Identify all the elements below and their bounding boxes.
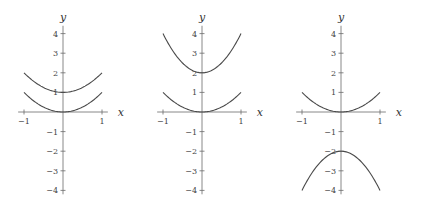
y-tick-label: 1 [53,88,58,97]
x-axis-label: x [257,106,264,119]
y-tick-label: 1 [192,88,197,97]
y-tick-label: 2 [331,69,336,78]
y-tick-label: −1 [185,128,197,137]
x-tick-label: −1 [18,117,30,126]
y-tick-label: −3 [46,167,58,176]
y-tick-label: 3 [331,49,336,58]
y-tick-label: 4 [53,30,58,39]
y-axis-label: y [337,11,345,24]
x-tick-label: −1 [157,117,169,126]
y-tick-label: −1 [324,128,336,137]
y-tick-label: 4 [192,30,197,39]
chart-panel-2: −11−4−3−2−11234xy [157,11,264,196]
parabola-comparison-charts: −11−4−3−2−11234xy−11−4−3−2−11234xy−11−4−… [0,0,422,209]
x-axis-label: x [118,106,125,119]
y-tick-label: −2 [46,147,58,156]
y-axis-label: y [198,11,206,24]
x-axis-label: x [396,106,403,119]
y-tick-label: 3 [192,49,197,58]
y-tick-label: −1 [46,128,58,137]
x-tick-label: 1 [238,117,243,126]
x-tick-label: 1 [377,117,382,126]
x-tick-label: −1 [296,117,308,126]
chart-panel-3: −11−4−3−2−11234xy [296,11,403,196]
y-tick-label: 3 [53,49,58,58]
x-tick-label: 1 [99,117,104,126]
chart-panel-1: −11−4−3−2−11234xy [18,11,125,196]
y-tick-label: 2 [53,69,58,78]
y-tick-label: −2 [185,147,197,156]
y-tick-label: −4 [324,186,336,195]
y-axis-label: y [59,11,67,24]
y-tick-label: −4 [185,186,197,195]
y-tick-label: 1 [331,88,336,97]
y-tick-label: 4 [331,30,336,39]
y-tick-label: −3 [185,167,197,176]
y-tick-label: −3 [324,167,336,176]
y-tick-label: −4 [46,186,58,195]
